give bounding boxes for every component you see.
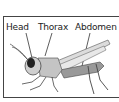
thorax [38,58,62,78]
grasshopper-illustration [0,0,119,102]
thorax-leader-line [45,33,52,56]
eye [27,58,35,68]
head-leader-line [26,33,32,58]
